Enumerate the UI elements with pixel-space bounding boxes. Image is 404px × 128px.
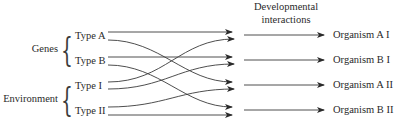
connection-lines [0, 0, 404, 128]
connection-typeB-to-BII [108, 65, 232, 107]
connection-typeA-to-AII [108, 40, 232, 82]
connection-typeII-to-AII [108, 89, 234, 107]
gene-environment-diagram: Developmental interactions Genes Environ… [0, 0, 404, 128]
